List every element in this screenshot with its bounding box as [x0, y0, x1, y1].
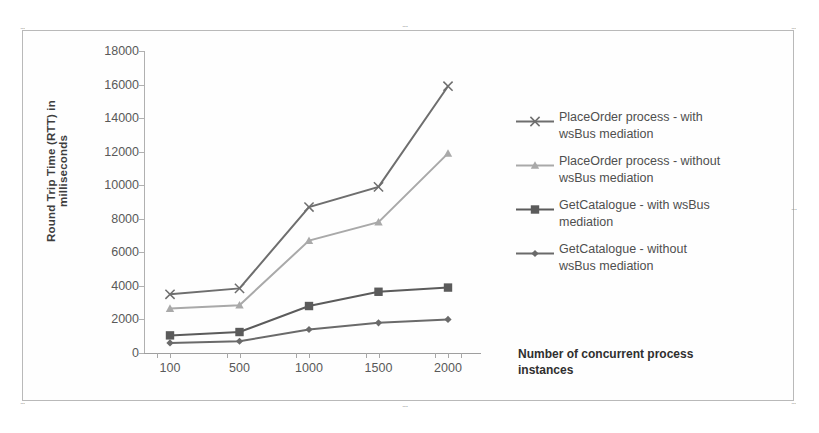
- legend-item[interactable]: PlaceOrder process - withoutwsBus mediat…: [515, 153, 780, 186]
- y-tick-mark: [139, 185, 144, 186]
- legend-marker-x-cross-icon: [515, 115, 555, 126]
- x-tick-mark: [461, 353, 462, 358]
- legend-label-line1: GetCatalogue - with wsBus: [559, 197, 780, 214]
- y-tick-mark: [139, 252, 144, 253]
- legend-label-line2: wsBus mediation: [559, 258, 780, 275]
- data-point-triangle: [444, 149, 452, 157]
- x-tick-mark: [448, 353, 449, 358]
- x-tick-mark: [170, 353, 171, 358]
- data-point-diamond: [236, 338, 243, 345]
- legend-label-line1: GetCatalogue - without: [559, 241, 780, 258]
- data-point-x-cross: [443, 82, 452, 91]
- y-tick-label: 16000: [85, 78, 139, 92]
- legend-item[interactable]: PlaceOrder process - withwsBus mediation: [515, 109, 780, 142]
- x-tick-label: 1500: [349, 361, 409, 375]
- y-tick-label: 4000: [85, 279, 139, 293]
- x-tick-label: 500: [210, 361, 270, 375]
- series-line: [170, 153, 448, 308]
- data-point-diamond: [375, 319, 382, 326]
- y-tick-mark: [139, 286, 144, 287]
- x-tick-mark: [296, 353, 297, 358]
- y-tick-label: 10000: [85, 178, 139, 192]
- x-axis-line: [144, 353, 481, 354]
- x-axis-title: Number of concurrent process instances: [518, 346, 728, 378]
- frame-handle-bottom-center[interactable]: ····: [402, 404, 416, 409]
- legend-label-line2: wsBus mediation: [559, 170, 780, 187]
- series-plot: [144, 51, 474, 353]
- y-tick-mark: [139, 219, 144, 220]
- y-tick-mark: [139, 353, 144, 354]
- data-point-square: [531, 205, 539, 213]
- plot-area: [144, 51, 474, 353]
- frame-handle-top-center[interactable]: ····: [402, 24, 416, 29]
- x-axis-tick-labels: 100500100015002000: [144, 361, 484, 381]
- y-tick-mark: [139, 118, 144, 119]
- data-point-diamond: [166, 339, 173, 346]
- y-tick-label: 2000: [85, 312, 139, 326]
- y-tick-label: 18000: [85, 44, 139, 58]
- legend-marker-diamond-icon: [515, 247, 555, 258]
- y-tick-label: 12000: [85, 145, 139, 159]
- legend-marker-square-icon: [515, 203, 555, 214]
- line-chart: Round Trip Time (RTT) in milliseconds 18…: [23, 31, 795, 402]
- x-tick-label: 100: [140, 361, 200, 375]
- data-point-square: [305, 302, 313, 310]
- data-point-square: [235, 328, 243, 336]
- y-axis-tick-labels: 1800016000140001200010000800060004000200…: [85, 31, 139, 402]
- data-point-square: [444, 283, 452, 291]
- y-tick-label: 0: [85, 346, 139, 360]
- x-tick-mark: [157, 353, 158, 358]
- data-point-diamond: [444, 316, 451, 323]
- legend-item[interactable]: GetCatalogue - with wsBusmediation: [515, 197, 780, 230]
- legend-label-line2: mediation: [559, 214, 780, 231]
- x-tick-label: 2000: [418, 361, 478, 375]
- legend-marker-triangle-icon: [515, 159, 555, 170]
- y-tick-mark: [139, 51, 144, 52]
- data-point-diamond: [531, 250, 538, 257]
- y-tick-mark: [139, 85, 144, 86]
- data-point-square: [166, 331, 174, 339]
- data-point-diamond: [305, 326, 312, 333]
- x-tick-mark: [309, 353, 310, 358]
- x-tick-mark: [379, 353, 380, 358]
- y-tick-mark: [139, 152, 144, 153]
- x-tick-mark: [240, 353, 241, 358]
- y-tick-label: 14000: [85, 111, 139, 125]
- chart-legend: PlaceOrder process - withwsBus mediation…: [515, 109, 780, 285]
- legend-label-line1: PlaceOrder process - without: [559, 153, 780, 170]
- x-tick-mark: [366, 353, 367, 358]
- x-tick-mark: [227, 353, 228, 358]
- x-tick-mark: [435, 353, 436, 358]
- x-tick-label: 1000: [279, 361, 339, 375]
- legend-label-line1: PlaceOrder process - with: [559, 109, 780, 126]
- y-axis-title: Round Trip Time (RTT) in milliseconds: [45, 64, 69, 279]
- legend-item[interactable]: GetCatalogue - withoutwsBus mediation: [515, 241, 780, 274]
- y-tick-label: 8000: [85, 212, 139, 226]
- y-tick-label: 6000: [85, 245, 139, 259]
- y-tick-mark: [139, 319, 144, 320]
- legend-label-line2: wsBus mediation: [559, 126, 780, 143]
- series-line: [170, 86, 448, 294]
- data-point-square: [374, 288, 382, 296]
- figure-frame: ···· ···· ···· ···· ···· ···· ···· Round…: [22, 30, 794, 401]
